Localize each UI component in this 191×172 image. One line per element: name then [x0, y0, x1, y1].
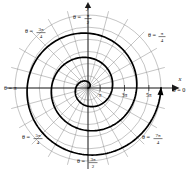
polar-spiral-figure: π 3π 5π x y θ = 0 θ = π 4 θ = π 2 θ	[0, 0, 191, 172]
y-axis-label: y	[86, 4, 90, 11]
angle-label-prefix: θ =	[73, 13, 82, 20]
angle-label-numerator: 3π	[38, 27, 44, 32]
tick-label-pi: π	[99, 92, 102, 98]
angle-label-numerator: 7π	[155, 133, 161, 138]
angle-label-prefix: θ =	[22, 133, 31, 140]
angle-label-prefix: θ =	[142, 133, 151, 140]
tick-label-3pi: 3π	[122, 92, 128, 98]
angle-label-numerator: 5π	[35, 133, 41, 138]
angle-label-prefix: θ =	[148, 31, 157, 38]
angle-label-prefix: θ =	[25, 27, 34, 34]
angle-label-numerator: 3π	[90, 157, 96, 162]
tick-label-5pi: 5π	[146, 92, 152, 98]
x-axis-label: x	[178, 75, 182, 82]
angle-label-prefix: θ =	[77, 157, 86, 164]
angle-label-theta-0: θ = 0	[173, 86, 186, 93]
angle-label-theta-pi: θ = π	[4, 84, 18, 91]
polar-chart-canvas: π 3π 5π x y θ = 0 θ = π 4 θ = π 2 θ	[0, 0, 191, 172]
